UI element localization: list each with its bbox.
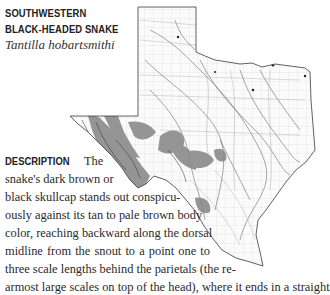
description-line-6: midline from the snout to a point one to xyxy=(5,244,210,259)
species-common-name: SOUTHWESTERN BLACK-HEADED SNAKE xyxy=(5,5,118,37)
common-name-line-1: SOUTHWESTERN xyxy=(5,5,118,21)
description-line-3: black skullcap stands out conspicu- xyxy=(5,190,181,205)
common-name-line-2: BLACK-HEADED SNAKE xyxy=(5,21,118,37)
species-scientific-name: Tantilla hobartsmithi xyxy=(5,37,115,53)
description-line-2: snake's dark brown or xyxy=(5,172,114,187)
description-line-5: color, reaching backward along the dorsa… xyxy=(5,226,212,241)
description-heading: DESCRIPTION xyxy=(5,155,70,167)
description-line-4: ously against its tan to pale brown body xyxy=(5,208,202,223)
description-line-8: armost large scales on top of the head),… xyxy=(5,280,330,295)
description-line-7: three scale lengths behind the parietals… xyxy=(5,262,236,277)
description-line-1: DESCRIPTION The xyxy=(5,154,103,169)
